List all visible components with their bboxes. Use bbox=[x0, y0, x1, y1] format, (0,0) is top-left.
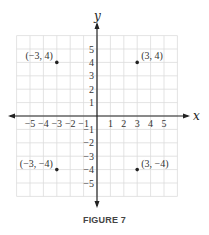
x-tick-labels: −5−4−3−2−112345 bbox=[25, 118, 167, 129]
coordinate-plane: x y −5−4−3−2−112345 54321−1−2−3−4−5 (−3,… bbox=[0, 0, 209, 235]
x-axis-left-arrow-icon bbox=[8, 114, 15, 119]
y-axis-label: y bbox=[93, 9, 101, 23]
axes: x y bbox=[8, 9, 200, 208]
data-point bbox=[135, 61, 139, 65]
point-label: (3, 4) bbox=[141, 50, 163, 62]
figure-caption: FIGURE 7 bbox=[0, 215, 209, 225]
point-label: (−3, 4) bbox=[25, 50, 52, 62]
x-axis-label: x bbox=[193, 109, 200, 123]
y-tick-label: −2 bbox=[83, 137, 94, 148]
x-tick-label: 1 bbox=[108, 118, 113, 129]
data-point bbox=[55, 61, 59, 65]
x-tick-label: −2 bbox=[65, 118, 76, 129]
y-tick-label: 3 bbox=[89, 70, 94, 81]
point-label: (−3, −4) bbox=[20, 158, 53, 170]
x-tick-label: −4 bbox=[38, 118, 49, 129]
x-tick-label: −5 bbox=[25, 118, 36, 129]
y-tick-label: −4 bbox=[83, 164, 94, 175]
x-tick-label: 3 bbox=[135, 118, 140, 129]
y-axis-down-arrow-icon bbox=[95, 201, 100, 208]
y-tick-label: −5 bbox=[83, 178, 94, 189]
x-tick-label: 5 bbox=[162, 118, 167, 129]
data-points: (−3, 4)(3, 4)(−3, −4)(3, −4) bbox=[20, 50, 169, 171]
y-tick-label: 2 bbox=[89, 84, 94, 95]
x-tick-label: 4 bbox=[148, 118, 153, 129]
y-axis-up-arrow-icon bbox=[95, 22, 100, 29]
data-point bbox=[55, 168, 59, 172]
y-tick-label: −3 bbox=[83, 151, 94, 162]
data-point bbox=[135, 168, 139, 172]
x-tick-label: −3 bbox=[51, 118, 62, 129]
point-label: (3, −4) bbox=[141, 158, 168, 170]
y-tick-label: 1 bbox=[89, 97, 94, 108]
x-axis-right-arrow-icon bbox=[183, 114, 190, 119]
y-tick-label: −1 bbox=[83, 124, 94, 135]
x-tick-label: 2 bbox=[121, 118, 126, 129]
y-tick-label: 4 bbox=[89, 57, 94, 68]
y-tick-label: 5 bbox=[89, 44, 94, 55]
